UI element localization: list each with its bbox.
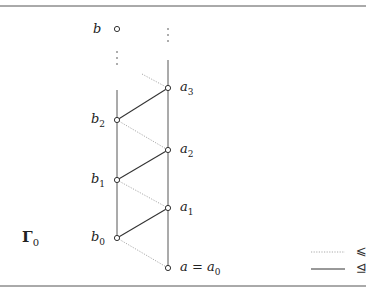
node-label-a2: a2 [180,142,194,159]
legend-leq-symbol: ⩽ [356,243,367,258]
node-label-a1: a1 [180,200,194,217]
node-label-b0: b0 [91,230,105,247]
node-label-a3: a3 [180,80,194,97]
diagram-title: Γ0 [22,228,39,248]
node-label-b: b [93,22,101,35]
dotted-edges [117,74,168,268]
node-label-a0: a = a0 [180,260,220,277]
solid-edges [117,88,168,238]
legend-trianglelefteq-symbol: ⊴ [356,260,367,275]
node-label-b2: b2 [91,112,105,129]
node-label-b1: b1 [91,172,105,189]
ellipsis-dots [116,28,169,65]
